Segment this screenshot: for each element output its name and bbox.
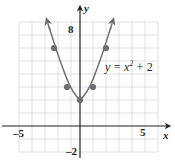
y-axis-label: y xyxy=(84,3,89,14)
parabola-figure: 8 –5 5 –2 y x y = x2 + 2 xyxy=(0,0,175,168)
x-tick-label-5: 5 xyxy=(140,127,146,138)
y-tick-label-8: 8 xyxy=(68,24,74,35)
equation-plus: + xyxy=(137,60,144,74)
data-point xyxy=(103,45,109,51)
grid-lines xyxy=(19,22,158,152)
data-point xyxy=(90,84,96,90)
data-point xyxy=(64,84,70,90)
x-axis-label: x xyxy=(163,130,169,141)
data-point xyxy=(51,45,57,51)
y-tick-label-minus-2: –2 xyxy=(66,146,77,157)
equation-equals: = xyxy=(114,60,121,74)
graph-canvas xyxy=(0,0,175,168)
equation-annotation: y = x2 + 2 xyxy=(105,61,153,73)
x-tick-label-minus-5: –5 xyxy=(13,128,24,139)
equation-constant: 2 xyxy=(147,60,153,74)
data-point xyxy=(77,97,83,103)
